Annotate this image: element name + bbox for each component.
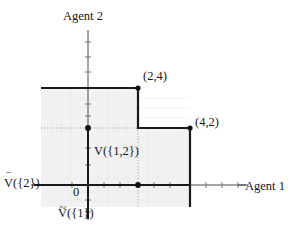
point-threat-agent2: [85, 125, 91, 131]
point-label-4-2: (4,2): [195, 116, 219, 129]
agent1-threat-label: V ~ ({1}): [58, 207, 94, 220]
point-2-4: [135, 85, 140, 90]
x-axis-label: Agent 1: [245, 180, 285, 193]
figure-container: Agent 2 Agent 1 (2,4) (4,2) V({1,2}) 0 V…: [0, 0, 307, 231]
y-axis-label: Agent 2: [63, 10, 103, 23]
agent2-threat-label: V ‾ ({2}): [4, 177, 40, 190]
agent2-threat-letter: V ‾: [4, 177, 13, 190]
region-label: V({1,2}): [94, 145, 139, 158]
point-label-2-4: (2,4): [143, 70, 167, 83]
agent1-threat-rest: ({1}): [67, 206, 94, 220]
origin-label: 0: [73, 186, 79, 199]
agent2-threat-rest: ({2}): [13, 176, 40, 190]
point-threat-agent1: [135, 182, 141, 188]
point-4-2: [187, 125, 192, 130]
agent1-threat-letter: V ~: [58, 207, 67, 220]
plot-canvas: [0, 0, 307, 231]
